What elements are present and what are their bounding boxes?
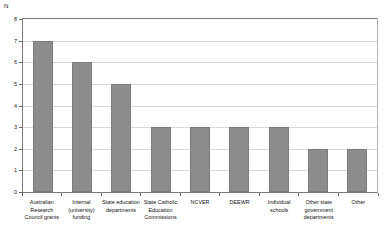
bar-slot [298, 19, 337, 192]
bar [308, 149, 328, 192]
bar [190, 127, 210, 192]
x-axis-tick [220, 193, 260, 197]
x-axis-tick [141, 193, 181, 197]
x-axis-tick-mark [180, 193, 181, 196]
x-axis-tick-mark [378, 193, 379, 196]
y-axis-tick-label: 6 [14, 59, 17, 65]
x-axis-tick [339, 193, 379, 197]
x-axis-tick-mark [298, 193, 299, 196]
x-axis-ticks [22, 193, 378, 197]
x-axis-category-label: NCVER [180, 199, 220, 222]
x-axis-tick-mark [338, 193, 339, 196]
bar [33, 41, 53, 192]
x-axis-tick-mark [22, 193, 23, 196]
x-axis-tick [22, 193, 62, 197]
bar [72, 62, 92, 192]
y-axis-tick-label: 2 [14, 146, 17, 152]
bar [269, 127, 289, 192]
y-axis-tick-label: 7 [14, 38, 17, 44]
x-axis-tick [259, 193, 299, 197]
y-axis-tick-label: 5 [14, 81, 17, 87]
bar-slot [102, 19, 141, 192]
x-axis-tick-mark [61, 193, 62, 196]
y-axis-tick-label: 3 [14, 124, 17, 130]
y-axis-tick-label: 1 [14, 167, 17, 173]
bar-slot [180, 19, 219, 192]
x-axis-category-label: Individual schools [259, 199, 299, 222]
x-axis-category-label: State Catholic Education Commissions [141, 199, 181, 222]
x-axis-tick-mark [140, 193, 141, 196]
x-axis-category-label: Other state government departments [299, 199, 339, 222]
x-axis-tick [180, 193, 220, 197]
bar-slot [62, 19, 101, 192]
x-axis-category-label: DEEWR [220, 199, 260, 222]
bar [229, 127, 249, 192]
bar-slot [259, 19, 298, 192]
x-axis-category-label: Internal (university) funding [62, 199, 102, 222]
y-axis-label: N [4, 2, 8, 10]
x-axis-category-label: State education departments [101, 199, 141, 222]
y-axis-tick-label: 4 [14, 103, 17, 109]
x-axis-tick-mark [219, 193, 220, 196]
x-axis-tick [299, 193, 339, 197]
bar-slot [141, 19, 180, 192]
bar [347, 149, 367, 192]
bar [111, 84, 131, 192]
x-axis-tick-mark [259, 193, 260, 196]
bar [151, 127, 171, 192]
y-axis-tick-label: 8 [14, 16, 17, 22]
x-axis-category-label: Other [339, 199, 379, 222]
x-axis-tick [101, 193, 141, 197]
bar-slot [23, 19, 62, 192]
x-axis-labels: Australian Research Council grantsIntern… [22, 199, 378, 222]
bar-slot [338, 19, 377, 192]
bar-chart-figure: N 876543210 Australian Research Council … [0, 0, 389, 233]
plot-area: 876543210 [22, 18, 378, 193]
bar-slot [220, 19, 259, 192]
x-axis-category-label: Australian Research Council grants [22, 199, 62, 222]
x-axis-tick [62, 193, 102, 197]
y-axis-tick-label: 0 [14, 189, 17, 195]
x-axis-tick-mark [101, 193, 102, 196]
bars-layer [23, 19, 377, 192]
